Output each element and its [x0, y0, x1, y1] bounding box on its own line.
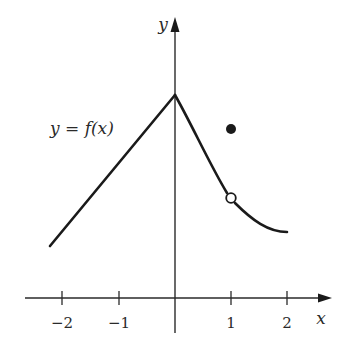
tick-label-neg1: −1 [108, 314, 130, 332]
y-axis-arrow-icon [171, 17, 180, 32]
tick-label-neg2: −2 [51, 314, 73, 332]
function-label: y = f(x) [49, 118, 114, 138]
function-graph: −2 −1 1 2 x y y = f(x) [0, 0, 345, 358]
open-circle-hole [226, 193, 236, 203]
x-axis-arrow-icon [318, 294, 332, 303]
filled-dot-point [226, 124, 236, 134]
tick-label-2: 2 [282, 314, 292, 332]
curve-segment-upper [175, 95, 227, 193]
y-axis-label: y [157, 14, 168, 34]
tick-label-1: 1 [226, 314, 236, 332]
x-axis-label: x [316, 308, 326, 328]
curve-segment-lower [235, 203, 287, 232]
